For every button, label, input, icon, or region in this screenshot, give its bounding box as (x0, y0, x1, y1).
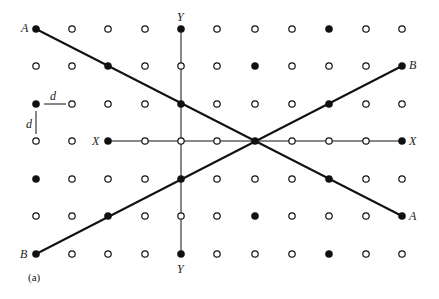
label-x-right: X (409, 135, 416, 147)
lattice-point-open (399, 26, 405, 32)
line-a-a (36, 29, 402, 216)
lattice-point-open (33, 138, 39, 144)
lattice-diagram (0, 0, 439, 299)
lattice-point-filled (251, 137, 258, 144)
lattice-point-open (289, 213, 295, 219)
label-b-left: B (20, 248, 27, 260)
lattice-point-open (142, 26, 148, 32)
lattice-point-filled (32, 100, 39, 107)
lattice-point-open (252, 251, 258, 257)
lattice-point-open (105, 176, 111, 182)
lattice-point-filled (325, 250, 332, 257)
lattice-figure: A A B B X X Y Y d d (a) (0, 0, 439, 299)
lattice-point-open (289, 26, 295, 32)
lattice-point-filled (251, 62, 258, 69)
lattice-point-open (214, 63, 220, 69)
lattice-point-filled (398, 62, 405, 69)
lattice-point-open (178, 138, 184, 144)
lattice-point-filled (32, 175, 39, 182)
label-a-left: A (21, 22, 28, 34)
lattice-point-open (326, 138, 332, 144)
label-d-horizontal: d (50, 90, 56, 102)
lattice-point-open (363, 63, 369, 69)
lattice-point-filled (251, 212, 258, 219)
lattice-point-open (69, 101, 75, 107)
lattice-point-open (69, 213, 75, 219)
lattice-point-open (142, 138, 148, 144)
lattice-point-open (289, 138, 295, 144)
lattice-point-open (214, 176, 220, 182)
lattice-point-filled (32, 25, 39, 32)
lattice-point-open (33, 63, 39, 69)
lattice-point-open (142, 63, 148, 69)
lattice-point-open (289, 63, 295, 69)
lattice-point-open (363, 176, 369, 182)
label-y-top: Y (177, 11, 184, 23)
label-b-right: B (409, 59, 416, 71)
lattice-point-open (289, 101, 295, 107)
lattice-point-filled (325, 25, 332, 32)
lattice-point-open (33, 213, 39, 219)
lattice-point-filled (177, 250, 184, 257)
lattice-point-open (399, 251, 405, 257)
lattice-point-filled (177, 25, 184, 32)
label-a-right: A (409, 210, 416, 222)
lattice-point-open (214, 138, 220, 144)
lattice-point-open (105, 101, 111, 107)
lattice-point-filled (104, 62, 111, 69)
label-x-left: X (92, 135, 99, 147)
lattice-point-open (142, 176, 148, 182)
lattice-point-open (289, 251, 295, 257)
lattice-point-open (142, 101, 148, 107)
lattice-point-open (69, 176, 75, 182)
lattice-point-open (289, 176, 295, 182)
line-b-b (36, 66, 402, 254)
lattice-point-open (105, 26, 111, 32)
lattice-point-open (363, 138, 369, 144)
lattice-point-open (399, 176, 405, 182)
lattice-point-open (178, 63, 184, 69)
lattice-point-open (142, 213, 148, 219)
lattice-point-filled (398, 212, 405, 219)
lattice-point-filled (325, 100, 332, 107)
lattice-point-open (69, 63, 75, 69)
lattice-point-open (69, 138, 75, 144)
lattice-point-open (326, 63, 332, 69)
lattice-point-open (105, 251, 111, 257)
lattice-point-open (326, 213, 332, 219)
lattice-point-filled (104, 212, 111, 219)
label-y-bottom: Y (177, 263, 184, 275)
lattice-point-open (69, 26, 75, 32)
label-d-vertical: d (26, 118, 32, 130)
lattice-point-open (399, 101, 405, 107)
lattice-point-open (252, 101, 258, 107)
lattice-point-open (252, 26, 258, 32)
lattice-point-open (214, 26, 220, 32)
lattice-point-filled (325, 175, 332, 182)
lattice-point-open (214, 213, 220, 219)
lattice-point-open (363, 251, 369, 257)
lattice-point-open (178, 213, 184, 219)
lattice-point-open (363, 101, 369, 107)
lattice-point-open (363, 26, 369, 32)
lattice-point-filled (104, 137, 111, 144)
lattice-point-filled (32, 250, 39, 257)
lattice-point-open (142, 251, 148, 257)
lattice-point-open (214, 251, 220, 257)
lattice-point-filled (398, 137, 405, 144)
lattice-point-filled (177, 100, 184, 107)
lattice-point-open (363, 213, 369, 219)
figure-caption: (a) (28, 272, 40, 283)
lattice-point-open (69, 251, 75, 257)
lattice-point-open (214, 101, 220, 107)
lattice-point-open (252, 176, 258, 182)
lattice-point-filled (177, 175, 184, 182)
